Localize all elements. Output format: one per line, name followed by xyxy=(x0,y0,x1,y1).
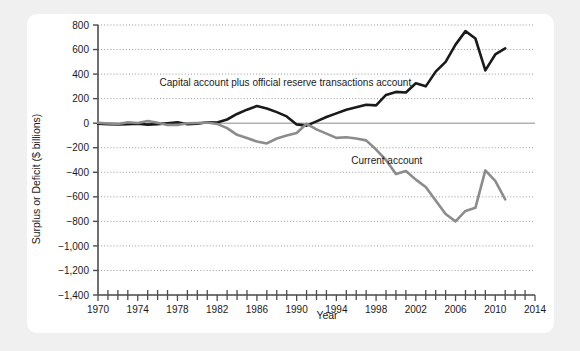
y-axis-tick-label: −400 xyxy=(66,167,89,178)
y-axis-tick-label: 200 xyxy=(72,93,89,104)
x-axis-tick-label: 2002 xyxy=(405,304,428,315)
y-axis-tick-label: −200 xyxy=(66,142,89,153)
chart-card: 8006004002000−200−400−600−800−1,000−1,20… xyxy=(27,14,554,333)
y-axis-title: Surplus or Deficit ($ billions) xyxy=(30,114,42,245)
series-line xyxy=(98,121,505,221)
x-axis-tick-label: 1974 xyxy=(127,304,150,315)
x-axis xyxy=(98,290,535,301)
y-axis-tick-label: −600 xyxy=(66,191,89,202)
y-axis-tick-label: 0 xyxy=(83,118,89,129)
gridlines xyxy=(98,25,535,295)
data-series xyxy=(98,31,505,221)
y-axis-tick-label: 800 xyxy=(72,20,89,31)
x-axis-tick-label: 2006 xyxy=(444,304,467,315)
y-axis-tick-labels: 8006004002000−200−400−600−800−1,000−1,20… xyxy=(58,20,89,301)
y-axis-tick-label: −800 xyxy=(66,216,89,227)
y-axis-tick-label: −1,000 xyxy=(58,241,89,252)
x-axis-tick-label: 1986 xyxy=(246,304,269,315)
y-axis-tick-label: 600 xyxy=(72,44,89,55)
y-axis-tick-label: −1,200 xyxy=(58,265,89,276)
x-axis-tick-label: 1982 xyxy=(206,304,229,315)
x-axis-tick-label: 1998 xyxy=(365,304,388,315)
x-axis-tick-label: 1990 xyxy=(286,304,309,315)
figure-root: 8006004002000−200−400−600−800−1,000−1,20… xyxy=(0,0,580,351)
series-annotation-label: Capital account plus official reserve tr… xyxy=(160,77,412,88)
x-axis-tick-label: 1970 xyxy=(87,304,110,315)
y-axis-tick-label: −1,400 xyxy=(58,290,89,301)
y-axis xyxy=(93,25,98,295)
x-axis-tick-label: 1978 xyxy=(166,304,189,315)
line-chart: 8006004002000−200−400−600−800−1,000−1,20… xyxy=(27,14,554,333)
y-axis-tick-label: 400 xyxy=(72,69,89,80)
x-axis-tick-label: 2014 xyxy=(524,304,547,315)
x-axis-tick-label: 2010 xyxy=(484,304,507,315)
series-annotation-label: Current account xyxy=(351,155,422,166)
x-axis-title: Year xyxy=(316,309,338,321)
